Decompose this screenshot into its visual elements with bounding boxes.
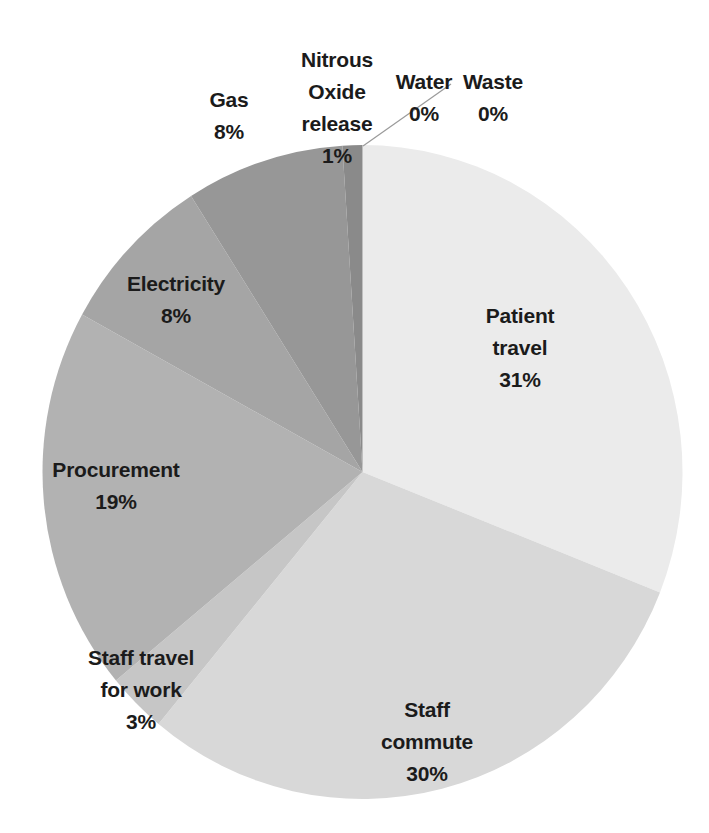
- slice-label-nitrous-oxide-release: Nitrous Oxide release 1%: [295, 44, 379, 172]
- slice-label-percent: 8%: [111, 300, 241, 332]
- slice-label-percent: 31%: [470, 364, 570, 396]
- slice-label-percent: 0%: [384, 98, 464, 130]
- slice-label-percent: 0%: [453, 98, 533, 130]
- slice-label-gas: Gas 8%: [194, 84, 264, 148]
- slice-label-name: Patient travel: [470, 300, 570, 364]
- slice-label-name: Staff commute: [375, 694, 480, 758]
- slice-label-name: Nitrous Oxide release: [295, 44, 379, 140]
- slice-label-percent: 1%: [295, 140, 379, 172]
- slice-label-percent: 3%: [79, 706, 204, 738]
- slice-label-patient-travel: Patient travel 31%: [470, 300, 570, 396]
- slice-label-name: Procurement: [36, 454, 196, 486]
- pie-chart-figure: Patient travel 31% Staff commute 30% Sta…: [0, 0, 709, 833]
- slice-label-electricity: Electricity 8%: [111, 268, 241, 332]
- slice-label-name: Electricity: [111, 268, 241, 300]
- slice-label-name: Staff travel for work: [79, 642, 204, 706]
- slice-label-name: Waste: [453, 66, 533, 98]
- slice-label-percent: 8%: [194, 116, 264, 148]
- slice-label-staff-commute: Staff commute 30%: [375, 694, 480, 790]
- slice-label-staff-travel-for-work: Staff travel for work 3%: [79, 642, 204, 738]
- slice-label-water: Water 0%: [384, 66, 464, 130]
- slice-label-percent: 19%: [36, 486, 196, 518]
- slice-label-percent: 30%: [375, 758, 480, 790]
- slice-label-procurement: Procurement 19%: [36, 454, 196, 518]
- slice-label-waste: Waste 0%: [453, 66, 533, 130]
- slice-label-name: Gas: [194, 84, 264, 116]
- slice-label-name: Water: [384, 66, 464, 98]
